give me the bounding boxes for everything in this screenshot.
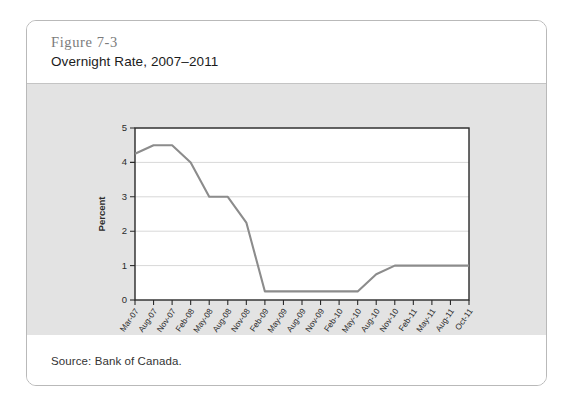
- ytick-label-3: 3: [122, 191, 127, 202]
- figure-caption: Figure 7-3 Overnight Rate, 2007–2011: [27, 21, 546, 83]
- source-block: Source: Bank of Canada.: [27, 335, 546, 385]
- xtick-label-12: May-10: [340, 307, 363, 335]
- source-note: Source: Bank of Canada.: [51, 355, 182, 367]
- xtick-label-17: Aug-11: [434, 307, 456, 334]
- line-chart: 012345Mar-07Aug-07Nov-07Feb-08May-08Aug-…: [27, 84, 546, 335]
- xtick-label-14: Nov-10: [378, 307, 401, 334]
- ytick-label-0: 0: [122, 294, 127, 305]
- y-axis-title: Percent: [96, 196, 107, 232]
- xtick-label-16: May-11: [415, 307, 438, 334]
- xtick-label-4: May-08: [192, 307, 215, 335]
- plot-background: [135, 128, 469, 300]
- ytick-label-1: 1: [122, 260, 127, 271]
- xtick-label-8: May-09: [266, 307, 289, 335]
- figure-title: Overnight Rate, 2007–2011: [51, 52, 546, 71]
- figure-number: Figure 7-3: [51, 33, 546, 51]
- xtick-label-18: Oct-11: [454, 307, 475, 332]
- ytick-label-4: 4: [122, 156, 127, 167]
- chart-panel: 012345Mar-07Aug-07Nov-07Feb-08May-08Aug-…: [27, 83, 546, 336]
- ytick-label-2: 2: [122, 225, 127, 236]
- ytick-label-5: 5: [122, 122, 127, 133]
- figure-card: Figure 7-3 Overnight Rate, 2007–2011 012…: [26, 20, 547, 386]
